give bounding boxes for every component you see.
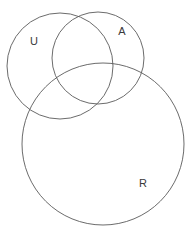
venn-diagram: U A R [0, 0, 196, 230]
set-circle-r[interactable] [22, 63, 184, 225]
venn-diagram-canvas: U A R [0, 0, 196, 230]
set-circle-u[interactable] [7, 13, 113, 119]
set-label-u: U [30, 35, 38, 47]
set-label-r: R [139, 177, 147, 189]
set-label-a: A [118, 25, 126, 37]
set-circle-a[interactable] [52, 12, 144, 104]
